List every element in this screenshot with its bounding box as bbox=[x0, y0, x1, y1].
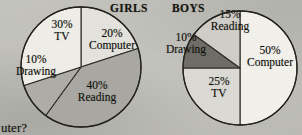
boys-computer-category: Computer bbox=[247, 57, 293, 69]
boys-drawing-percent: 10% bbox=[166, 32, 206, 44]
pie-charts-figure: GIRLS 20% Computer 40% Reading 10% Drawi… bbox=[0, 0, 302, 135]
girls-slice-label-tv: 30% TV bbox=[51, 19, 72, 42]
girls-computer-percent: 20% bbox=[89, 28, 135, 40]
girls-drawing-percent: 10% bbox=[16, 54, 56, 66]
boys-chart-title: BOYS bbox=[172, 2, 205, 14]
boys-drawing-category: Drawing bbox=[166, 44, 206, 56]
girls-tv-percent: 30% bbox=[51, 19, 72, 31]
cut-off-question-text: uter? bbox=[1, 120, 27, 135]
girls-drawing-category: Drawing bbox=[16, 66, 56, 78]
girls-reading-percent: 40% bbox=[78, 80, 116, 92]
boys-tv-category: TV bbox=[208, 88, 229, 100]
girls-tv-category: TV bbox=[51, 31, 72, 43]
girls-slice-label-computer: 20% Computer bbox=[89, 28, 135, 51]
girls-chart-title: GIRLS bbox=[110, 2, 148, 14]
girls-slice-label-reading: 40% Reading bbox=[78, 80, 116, 103]
boys-slice-label-drawing: 10% Drawing bbox=[166, 32, 206, 55]
boys-slice-label-computer: 50% Computer bbox=[247, 45, 293, 68]
girls-computer-category: Computer bbox=[89, 40, 135, 52]
girls-slice-label-drawing: 10% Drawing bbox=[16, 54, 56, 77]
boys-computer-percent: 50% bbox=[247, 45, 293, 57]
girls-reading-category: Reading bbox=[78, 92, 116, 104]
boys-slice-label-reading: 15% Reading bbox=[211, 9, 249, 32]
boys-slice-label-tv: 25% TV bbox=[208, 76, 229, 99]
boys-tv-percent: 25% bbox=[208, 76, 229, 88]
boys-reading-category: Reading bbox=[211, 21, 249, 33]
boys-reading-percent: 15% bbox=[211, 9, 249, 21]
